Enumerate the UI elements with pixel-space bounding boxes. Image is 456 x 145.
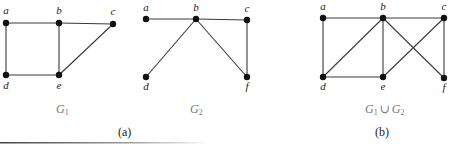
vertex-b: [380, 15, 386, 21]
vertex-label-b: b: [193, 1, 199, 13]
edge-b-f: [196, 19, 247, 77]
vertex-c: [244, 17, 250, 23]
bottom-rule: [0, 142, 210, 144]
vertex-label-d: d: [320, 80, 326, 92]
vertex-a: [143, 16, 149, 22]
vertex-label-f: f: [245, 80, 250, 92]
vertex-label-a: a: [320, 0, 326, 12]
vertex-label-e: e: [57, 79, 62, 91]
edge-b-d: [146, 19, 196, 77]
vertex-a: [320, 15, 326, 21]
edge-e-c: [59, 24, 113, 75]
vertex-e: [56, 72, 62, 78]
graph-g1-union-g2: abcdef: [320, 0, 448, 93]
vertex-b: [56, 20, 62, 26]
vertex-label-b: b: [380, 0, 386, 12]
vertex-c: [110, 21, 116, 27]
vertex-label-c: c: [111, 5, 116, 17]
caption-a: (a): [118, 125, 131, 139]
vertex-label-d: d: [3, 79, 9, 91]
vertex-d: [3, 72, 9, 78]
vertex-b: [193, 16, 199, 22]
vertex-label-a: a: [3, 4, 9, 16]
vertex-a: [3, 20, 9, 26]
vertex-label-d: d: [143, 80, 149, 92]
graph-g1: abcde: [3, 4, 116, 91]
vertex-c: [441, 15, 447, 21]
g1-label: G1: [56, 102, 69, 117]
union-label: G1∪G2: [365, 102, 404, 117]
edge-b-c: [196, 19, 247, 20]
vertex-label-c: c: [442, 0, 447, 12]
vertex-label-c: c: [245, 2, 250, 14]
g2-label: G2: [190, 102, 203, 117]
vertex-label-a: a: [143, 1, 149, 13]
edge-b-d: [323, 18, 383, 77]
vertex-label-f: f: [442, 81, 447, 93]
edge-b-c: [59, 23, 113, 24]
vertex-label-e: e: [381, 80, 386, 92]
vertex-label-b: b: [56, 4, 62, 16]
caption-b: (b): [375, 125, 389, 139]
graph-union-figure: abcde abcdf abcdef G1 G2 G1∪G2 (a) (b): [0, 0, 456, 145]
graph-g2: abcdf: [143, 1, 251, 92]
